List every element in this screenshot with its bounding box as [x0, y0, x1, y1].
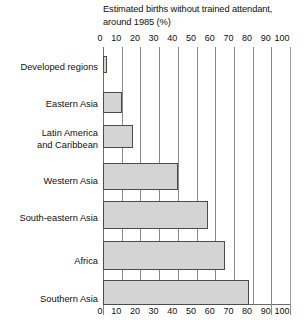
tick-label-top-50: 50: [186, 33, 199, 43]
tick-label-bottom-50: 50: [186, 306, 199, 316]
bar-south-eastern-asia[interactable]: [103, 201, 208, 229]
category-label-western-asia: Western Asia: [0, 176, 98, 188]
chart-title: Estimated births without trained attenda…: [103, 3, 303, 28]
tick-label-top-10: 10: [111, 33, 124, 43]
tick-label-top-20: 20: [130, 33, 143, 43]
category-label-developed-regions: Developed regions: [0, 62, 98, 74]
tick-label-bottom-10: 10: [111, 306, 124, 316]
tick-label-top-90: 90: [261, 33, 274, 43]
tick-label-bottom-20: 20: [130, 306, 143, 316]
category-label-latin-america-and-caribbean: Latin America and Caribbean: [0, 128, 98, 151]
tick-label-top-0: 0: [97, 33, 105, 43]
bar-southern-asia[interactable]: [103, 280, 249, 305]
tick-label-bottom-80: 80: [242, 306, 255, 316]
gridline-70: [234, 47, 235, 304]
tick-label-top-60: 60: [205, 33, 218, 43]
tick-label-bottom-90: 90: [261, 306, 274, 316]
chart-container: Estimated births without trained attenda…: [0, 0, 304, 329]
gridline-80: [253, 47, 254, 304]
category-label-africa: Africa: [0, 256, 98, 268]
tick-label-bottom-30: 30: [149, 306, 162, 316]
gridline-100: [290, 47, 291, 304]
gridline-90: [271, 47, 272, 304]
bar-latin-america-and-caribbean[interactable]: [103, 125, 133, 148]
tick-label-bottom-0: 0: [97, 306, 105, 316]
category-label-southern-asia: Southern Asia: [0, 294, 98, 306]
tick-label-bottom-40: 40: [167, 306, 180, 316]
tick-label-bottom-100: 100: [274, 306, 292, 316]
tick-label-top-80: 80: [242, 33, 255, 43]
tick-label-bottom-70: 70: [223, 306, 236, 316]
bar-developed-regions[interactable]: [103, 56, 107, 73]
tick-label-top-30: 30: [149, 33, 162, 43]
bar-western-asia[interactable]: [103, 163, 178, 190]
tick-label-bottom-60: 60: [205, 306, 218, 316]
bar-eastern-asia[interactable]: [103, 92, 122, 113]
tick-label-top-100: 100: [274, 33, 292, 43]
tick-label-top-70: 70: [223, 33, 236, 43]
tick-label-top-40: 40: [167, 33, 180, 43]
category-label-south-eastern-asia: South-eastern Asia: [0, 213, 98, 225]
category-label-eastern-asia: Eastern Asia: [0, 99, 98, 111]
bar-africa[interactable]: [103, 241, 225, 270]
